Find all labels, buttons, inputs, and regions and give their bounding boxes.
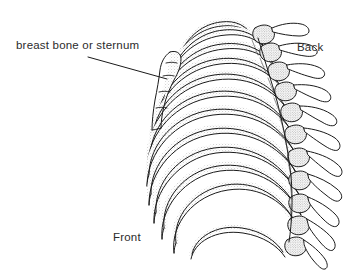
label-front: Front [113, 231, 141, 244]
vertebra-4 [275, 82, 331, 102]
label-back: Back [297, 41, 323, 54]
leader-line [88, 57, 167, 79]
rib-12-floating [191, 227, 285, 259]
label-sternum: breast bone or sternum [16, 39, 139, 52]
vertebra-3 [268, 62, 325, 81]
rib-11 [174, 184, 299, 253]
figure-canvas: breast bone or sternum Back Front [0, 0, 361, 270]
vertebral-column [253, 23, 342, 269]
